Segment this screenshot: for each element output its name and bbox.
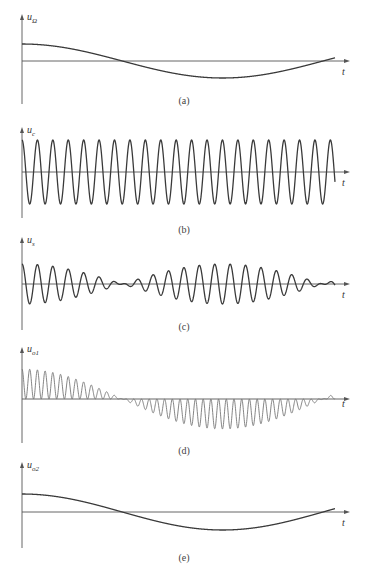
caption-a: (a) (178, 95, 189, 106)
t-axis-arrow-a (344, 59, 350, 63)
ylabel-a: uΩ (27, 11, 37, 25)
xlabel-e: t (342, 517, 345, 528)
t-axis-arrow-e (344, 510, 350, 514)
y-axis-arrow-b (20, 127, 24, 133)
caption-b: (b) (178, 224, 190, 235)
ylabel-b: uc (27, 124, 35, 138)
t-axis-arrow-c (344, 282, 350, 286)
waveform-figure (0, 0, 369, 571)
caption-e: (e) (178, 552, 189, 563)
y-axis-arrow-a (20, 14, 24, 20)
xlabel-d: t (342, 398, 345, 409)
y-axis-arrow-d (20, 347, 24, 353)
caption-c: (c) (178, 321, 189, 332)
xlabel-b: t (342, 177, 345, 188)
ylabel-c: us (27, 234, 35, 248)
caption-d: (d) (178, 445, 190, 456)
y-axis-arrow-c (20, 237, 24, 243)
xlabel-a: t (342, 66, 345, 77)
ylabel-e: uo2 (27, 459, 39, 473)
xlabel-c: t (342, 289, 345, 300)
t-axis-arrow-b (344, 170, 350, 174)
y-axis-arrow-e (20, 462, 24, 468)
ylabel-d: uo1 (27, 343, 39, 357)
